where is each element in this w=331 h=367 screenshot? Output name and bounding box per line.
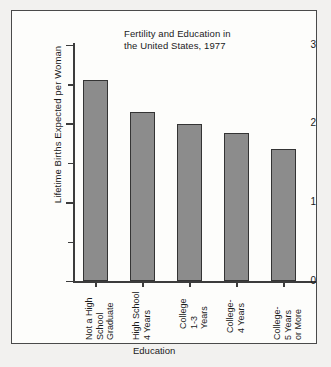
x-label-high-school-4-years: High School 4 Years — [131, 291, 152, 340]
x-label-college-5-years-or-more: College- 5 Years or More — [272, 306, 304, 340]
x-label-line: Graduate — [105, 297, 116, 340]
x-label-line: College- — [272, 306, 283, 340]
bar-college-1-3-years — [177, 124, 202, 281]
y-tick-3 — [66, 45, 74, 47]
x-tick-4 — [283, 282, 285, 287]
x-axis-title: Education — [133, 345, 175, 356]
y-tick-1 — [66, 202, 74, 204]
y-tick-label-3: 3 — [272, 39, 316, 50]
y-tick-minor-1-5 — [68, 163, 74, 165]
x-label-line: Not a High — [84, 297, 95, 340]
chart-frame: Fertility and Education in the United St… — [11, 10, 317, 344]
x-label-line: Years — [199, 298, 210, 329]
x-label-college-1-3-years: College 1-3 Years — [178, 298, 210, 329]
x-label-line: High School — [131, 291, 142, 340]
x-label-line: College- — [225, 299, 236, 333]
y-tick-minor-0-5 — [68, 242, 74, 244]
bar-high-school-4-years — [130, 112, 155, 281]
y-tick-0 — [66, 281, 74, 283]
bar-not-a-high-school-graduate — [83, 80, 108, 281]
x-label-line: 1-3 — [189, 298, 200, 329]
x-label-line: 5 Years — [283, 306, 294, 340]
x-tick-1 — [142, 282, 144, 287]
x-label-line: 4 Years — [236, 299, 247, 333]
x-label-not-a-high-school-graduate: Not a High School Graduate — [84, 297, 116, 340]
bar-college-5-years-or-more — [271, 149, 296, 281]
y-tick-label-2: 2 — [272, 117, 316, 128]
y-tick-2 — [66, 123, 74, 125]
x-label-college-4-years: College- 4 Years — [225, 299, 246, 333]
x-tick-2 — [189, 282, 191, 287]
x-tick-0 — [95, 282, 97, 287]
x-label-line: 4 Years — [142, 291, 153, 340]
x-label-line: School — [95, 297, 106, 340]
y-tick-minor-2-5 — [68, 84, 74, 86]
x-label-line: College — [178, 298, 189, 329]
chart-page: Fertility and Education in the United St… — [0, 0, 331, 367]
y-axis-title: Lifetime Births Expected per Woman — [52, 40, 63, 210]
x-label-line: or More — [293, 306, 304, 340]
x-tick-3 — [236, 282, 238, 287]
bar-college-4-years — [224, 133, 249, 281]
